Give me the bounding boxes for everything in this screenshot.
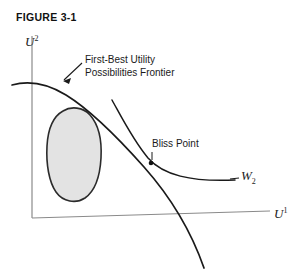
frontier-annotation-line-1: First-Best Utility [85, 54, 174, 67]
w2-leader-dash [230, 178, 239, 179]
y-axis-label-base: U [25, 34, 34, 49]
frontier-leader-line [63, 63, 82, 84]
y-axis-label: U2 [25, 34, 38, 50]
figure-container: FIGURE 3-1 U2 U1 W2 First-Best Utility [0, 0, 304, 275]
frontier-annotation-line-2: Possibilities Frontier [85, 67, 174, 80]
curve-w2-label-subscript: 2 [252, 177, 256, 186]
curve-w2-label-base: W [241, 168, 252, 183]
bliss-point-annotation: Bliss Point [152, 138, 199, 151]
x-axis-line [32, 211, 270, 218]
x-axis-label-superscript: 1 [283, 206, 287, 215]
bliss-point-marker [149, 161, 154, 166]
frontier-arrowhead [63, 78, 71, 84]
y-axis-label-superscript: 2 [34, 34, 38, 43]
x-axis-label-base: U [274, 206, 283, 221]
x-axis-label: U1 [274, 206, 287, 222]
second-best-region [47, 108, 101, 201]
frontier-annotation: First-Best Utility Possibilities Frontie… [85, 54, 174, 79]
curve-w2-label: W2 [241, 168, 256, 186]
